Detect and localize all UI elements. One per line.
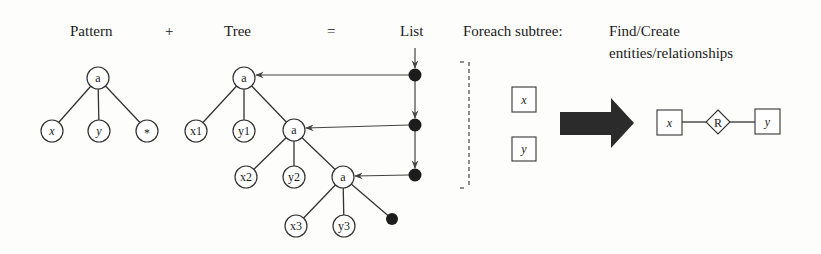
svg-text:x: x [48,124,55,138]
foreach-bracket [460,62,469,188]
plus-sign: + [165,23,173,39]
pattern-tree: a x y * [41,67,158,142]
svg-text:y2: y2 [288,170,300,184]
svg-text:y3: y3 [338,219,350,233]
svg-text:y: y [95,124,102,138]
svg-text:x: x [666,116,673,130]
pattern-heading: Pattern [70,23,113,39]
svg-text:y1: y1 [238,124,250,138]
svg-text:y: y [520,142,527,156]
pattern-child-y-node: y [88,120,110,142]
data-tree: a x1 y1 a x2 y2 a x3 [185,67,398,237]
tree-terminal-dot [386,213,398,225]
svg-text:R: R [714,116,722,130]
svg-text:x1: x1 [190,124,202,138]
svg-text:a: a [291,123,297,137]
foreach-heading: Foreach subtree: [463,23,563,39]
tree-y2-node: y2 [283,166,305,188]
tree-y3-node: y3 [333,215,355,237]
subtree-box-x: x [512,87,536,112]
diagram-svg: Pattern + Tree = List Foreach subtree: F… [0,0,821,254]
find-create-heading: Find/Create [609,23,680,39]
list-pointer-to-level3 [355,175,409,176]
er-diagram: x R y [657,109,780,135]
svg-text:a: a [241,71,247,85]
diagram-canvas: Pattern + Tree = List Foreach subtree: F… [0,0,821,254]
big-right-arrow-icon [560,98,634,148]
subtree-box-y: y [512,137,536,161]
tree-y1-node: y1 [233,120,255,142]
svg-text:a: a [95,71,101,85]
tree-level3-a-node: a [332,166,354,188]
svg-text:x3: x3 [290,219,302,233]
pattern-root-node: a [87,67,109,89]
tree-level2-a-node: a [283,119,305,141]
equals-sign: = [327,23,335,39]
er-relationship-r: R [706,110,730,134]
list-structure [256,48,422,182]
svg-text:a: a [340,170,346,184]
list-node-2 [409,119,422,132]
svg-text:x: x [520,93,527,107]
list-node-3 [409,169,422,182]
er-entity-y: y [755,109,780,134]
tree-heading: Tree [224,23,251,39]
tree-x3-node: x3 [285,215,307,237]
tree-root-a-node: a [233,67,255,89]
list-node-1 [409,69,422,82]
list-pointer-to-level2 [306,125,409,128]
pattern-child-x-node: x [41,120,63,142]
tree-x2-node: x2 [235,166,257,188]
er-entity-x: x [657,110,682,135]
svg-text:*: * [144,126,150,140]
list-heading: List [400,23,424,39]
pattern-child-wildcard-node: * [136,120,158,142]
svg-text:y: y [764,115,771,129]
entities-relationships-heading: entities/relationships [609,45,733,61]
svg-text:x2: x2 [240,170,252,184]
tree-x1-node: x1 [185,120,207,142]
